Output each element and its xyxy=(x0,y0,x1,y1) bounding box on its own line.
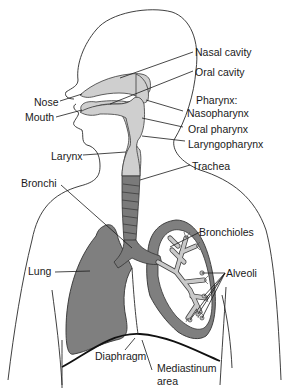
label-bronchi: Bronchi xyxy=(21,177,57,189)
label-alveoli: Alveoli xyxy=(226,267,257,279)
label-laryngopharynx: Laryngopharynx xyxy=(188,138,263,150)
label-bronchioles: Bronchioles xyxy=(199,226,254,238)
label-oral-pharynx: Oral pharynx xyxy=(188,123,248,135)
label-mediastinum: Mediastinum xyxy=(157,362,217,374)
label-larynx: Larynx xyxy=(51,150,83,162)
label-mouth: Mouth xyxy=(25,111,54,123)
oral-cavity-shape xyxy=(80,97,145,176)
label-lung: Lung xyxy=(28,265,51,277)
right-arm-line xyxy=(220,287,232,385)
label-trachea: Trachea xyxy=(192,160,230,172)
label-pharynx-heading: Pharynx: xyxy=(196,94,237,106)
label-diaphragm: Diaphragm xyxy=(95,350,146,362)
respiratory-diagram: Nasal cavity Oral cavity Pharynx: Nasoph… xyxy=(0,0,286,388)
label-nose: Nose xyxy=(34,96,59,108)
label-oral-cavity: Oral cavity xyxy=(195,66,245,78)
label-nasal-cavity: Nasal cavity xyxy=(195,46,252,58)
label-nasopharynx: Nasopharynx xyxy=(187,107,249,119)
mediastinum-divider xyxy=(132,268,138,334)
diagram-artwork xyxy=(0,0,286,388)
label-mediastinum-area: area xyxy=(157,375,178,387)
left-arm-line xyxy=(52,290,62,388)
